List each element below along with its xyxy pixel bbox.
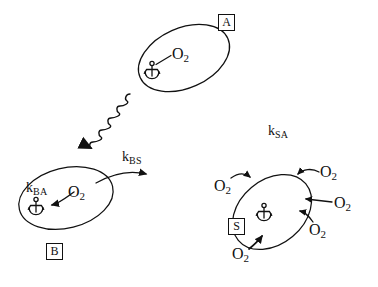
- anchor-icon-b: [28, 197, 43, 214]
- rate-label-ksa: kSA: [268, 124, 288, 140]
- rate-label-kbs: kBS: [122, 150, 142, 166]
- anchor-icon-s: [256, 203, 271, 220]
- wavy-photon-arrow: [90, 94, 130, 148]
- molecule-o2-s-right: O2: [334, 195, 351, 213]
- molecule-o2-s-upper-right: O2: [320, 164, 337, 182]
- state-label-b: B: [46, 243, 63, 260]
- s-o2-arrow-lower-left: [249, 236, 262, 249]
- molecule-o2-state-a: O2: [172, 46, 189, 64]
- rate-label-kba: kBA: [26, 181, 48, 197]
- state-label-s: S: [228, 218, 245, 235]
- molecule-o2-s-upper-left: O2: [214, 178, 231, 196]
- s-o2-arrow-upper-right: [298, 170, 319, 174]
- molecule-o2-s-lower-left: O2: [232, 246, 249, 264]
- bond-line-a: [156, 56, 171, 65]
- figure-canvas: O2 A O2 kBA B kBS kSA S O2 O2 O2 O2 O2: [0, 0, 378, 287]
- molecule-o2-state-b: O2: [68, 184, 85, 202]
- state-label-a: A: [218, 14, 235, 31]
- s-o2-arrow-upper-left: [231, 174, 250, 178]
- molecule-o2-s-lower-right: O2: [309, 222, 326, 240]
- s-o2-arrow-right: [306, 199, 332, 202]
